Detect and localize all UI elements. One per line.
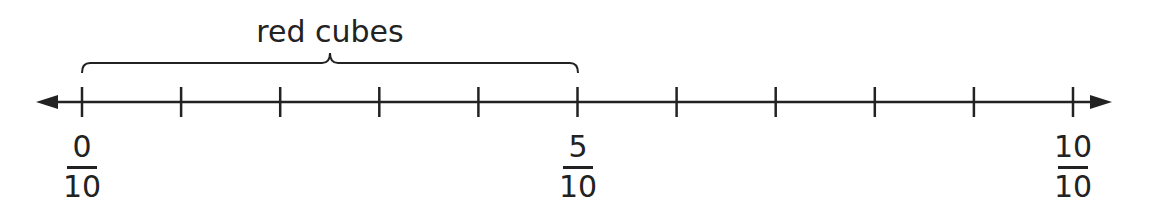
denominator: 10 (42, 172, 122, 202)
numerator: 10 (1033, 132, 1113, 162)
fraction-label-10: 10 10 (1033, 132, 1113, 202)
denominator: 10 (538, 172, 618, 202)
numerator: 0 (42, 132, 122, 162)
arrow-right-icon (1090, 95, 1112, 109)
bracket-label: red cubes (180, 14, 480, 49)
number-line (50, 53, 1095, 117)
numerator: 5 (538, 132, 618, 162)
denominator: 10 (1033, 172, 1113, 202)
fraction-label-5: 5 10 (538, 132, 618, 202)
bracket-red-cubes (82, 53, 578, 73)
arrow-left-icon (36, 95, 58, 109)
fraction-label-0: 0 10 (42, 132, 122, 202)
